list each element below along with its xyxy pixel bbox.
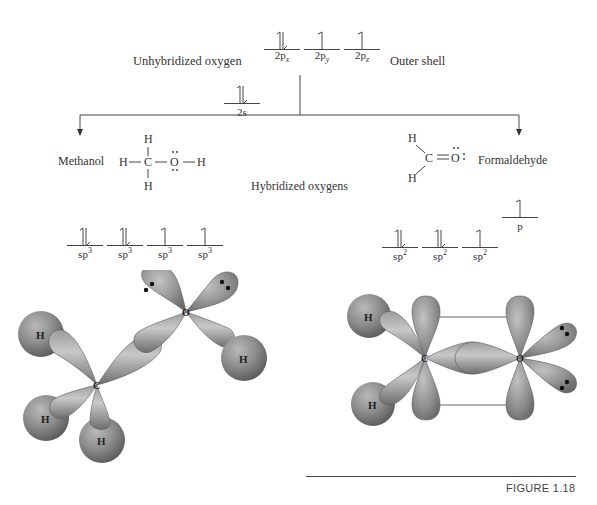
orbital-sp3-2: sp3 <box>107 226 143 260</box>
electron-dot <box>144 288 148 292</box>
arrow-down-icon <box>516 129 522 136</box>
atom-o: O <box>516 353 524 364</box>
atom-h: H <box>144 132 153 146</box>
electron-dot <box>150 282 154 286</box>
atom-c: C <box>144 155 152 169</box>
orbital-label: sp3 <box>187 246 223 260</box>
atom-c: C <box>93 380 100 391</box>
orbital-sp2-1: sp2 <box>382 228 418 262</box>
atom-o: O <box>451 151 460 165</box>
atom-h: H <box>144 179 153 193</box>
figure-caption: FIGURE 1.18 <box>506 482 575 494</box>
lone-pair-lobe <box>142 270 186 312</box>
orbital-label: p <box>502 220 538 232</box>
electron-dot <box>220 280 224 284</box>
hybridized-oxygens-label: Hybridized oxygens <box>251 179 348 194</box>
formaldehyde-label: Formaldehyde <box>478 153 547 168</box>
orbital-p: p <box>502 198 538 232</box>
atom-h: H <box>408 131 417 145</box>
atom-c: C <box>421 353 428 364</box>
electron-dot <box>565 332 569 336</box>
electron-dot <box>560 386 564 390</box>
atom-h: H <box>119 155 128 169</box>
lone-pair-lobe <box>186 272 238 312</box>
orbital-sp3-1: sp3 <box>67 226 103 260</box>
orbital-label: sp3 <box>67 246 103 260</box>
atom-h: H <box>408 171 417 185</box>
methanol-label: Methanol <box>58 154 104 169</box>
caption-rule <box>306 476 576 477</box>
formaldehyde-orbital-model: H H C O <box>330 260 597 460</box>
atom-h: H <box>197 155 206 169</box>
orbital-label: sp3 <box>107 246 143 260</box>
atom-h: H <box>97 435 106 447</box>
atom-h: H <box>41 413 50 425</box>
orbital-sp3-4: sp3 <box>187 226 223 260</box>
orbital-sp2-3: sp2 <box>462 228 498 262</box>
orbital-sp3-3: sp3 <box>147 226 183 260</box>
orbital-sp2-2: sp2 <box>422 228 458 262</box>
electron-dot <box>560 326 564 330</box>
electron-dot <box>565 380 569 384</box>
atom-o: O <box>170 155 179 169</box>
orbital-label: sp3 <box>147 246 183 260</box>
atom-h: H <box>368 399 377 411</box>
atom-h: H <box>36 329 45 341</box>
atom-h: H <box>239 353 248 365</box>
atom-o: O <box>182 307 190 318</box>
methanol-structure: H H C O H H <box>115 128 225 196</box>
arrow-down-icon <box>77 129 83 136</box>
atom-h: H <box>364 311 373 323</box>
branch-arrows <box>0 0 597 200</box>
formaldehyde-structure: H C O H <box>405 130 485 186</box>
atom-c: C <box>425 151 433 165</box>
methanol-orbital-model: H H H H C O <box>0 270 300 485</box>
electron-dot <box>226 286 230 290</box>
orbital-line <box>502 217 538 218</box>
